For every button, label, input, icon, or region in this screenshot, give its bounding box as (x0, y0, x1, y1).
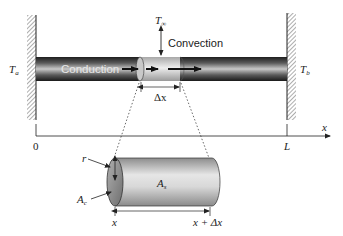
element-end-label: x + Δx (192, 216, 222, 228)
heat-rod-diagram: Conduction Ta Tb T∞ Convection Δx 0 L x … (0, 0, 343, 236)
axis-var-label: x (321, 121, 327, 133)
left-temp-label: Ta (9, 63, 19, 77)
axis-origin-label: 0 (33, 140, 39, 152)
delta-x-label: Δx (154, 91, 167, 103)
left-wall (27, 15, 36, 120)
radius-label: r (82, 152, 87, 164)
right-temp-label: Tb (300, 63, 310, 77)
right-wall (287, 13, 296, 120)
conduction-label: Conduction (61, 63, 119, 75)
cross-section-area-label: Ac (76, 193, 88, 207)
element-start-label: x (111, 216, 117, 228)
projection-line-left (114, 83, 139, 158)
x-axis (36, 124, 330, 136)
element-length-dimension (115, 207, 210, 216)
convection-label: Convection (168, 37, 223, 49)
radius-leader (88, 159, 110, 167)
ambient-temp-label: T∞ (155, 14, 166, 28)
axis-end-label: L (283, 140, 290, 152)
projection-line-right (181, 83, 209, 158)
